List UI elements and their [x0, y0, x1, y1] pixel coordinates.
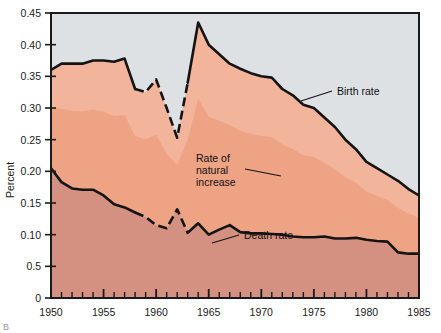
- annotation-birth-rate: Birth rate: [337, 85, 380, 97]
- birth-death-rate-area-chart: 00.50.100.150.200.250.300.350.400.45 195…: [0, 0, 441, 333]
- y-tick-label-6: 0.30: [21, 102, 42, 114]
- x-tick-label-7: 1985: [407, 306, 431, 318]
- annotation-natural-increase-line1: Rate of: [196, 152, 230, 164]
- figure-corner-label: B: [3, 322, 9, 332]
- y-tick-label-2: 0.10: [21, 229, 42, 241]
- annotation-death-rate: Death rate: [244, 229, 293, 241]
- y-tick-label-5: 0.25: [21, 134, 42, 146]
- y-tick-label-0: 0: [35, 292, 41, 304]
- x-tick-label-4: 1970: [250, 306, 274, 318]
- y-tick-label-9: 0.45: [21, 7, 42, 19]
- annotation-natural-increase-line3: increase: [196, 176, 236, 188]
- x-tick-label-5: 1975: [302, 306, 326, 318]
- y-axis-title: Percent: [4, 162, 16, 198]
- x-tick-label-6: 1980: [355, 306, 379, 318]
- y-tick-label-4: 0.20: [21, 165, 42, 177]
- y-tick-label-1: 0.5: [26, 260, 41, 272]
- x-tick-label-1: 1955: [92, 306, 116, 318]
- y-tick-label-3: 0.15: [21, 197, 42, 209]
- y-tick-label-7: 0.35: [21, 70, 42, 82]
- chart-figure: 00.50.100.150.200.250.300.350.400.45 195…: [0, 0, 441, 333]
- x-tick-label-0: 1950: [39, 306, 63, 318]
- annotation-natural-increase-line2: natural: [196, 164, 228, 176]
- x-tick-label-3: 1965: [197, 306, 221, 318]
- x-tick-label-2: 1960: [144, 306, 168, 318]
- y-tick-label-8: 0.40: [21, 39, 42, 51]
